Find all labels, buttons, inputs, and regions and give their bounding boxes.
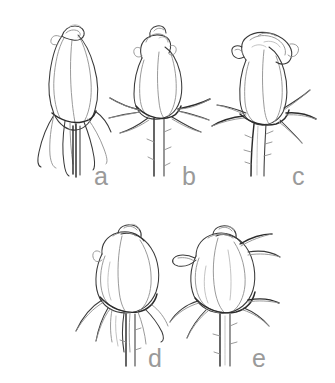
rose-bud-drawing-b bbox=[104, 14, 219, 179]
rose-bud-drawing-c bbox=[206, 14, 331, 179]
panel-label-e: e bbox=[252, 346, 266, 371]
figure-panel-e: e bbox=[168, 200, 303, 370]
panel-label-c: c bbox=[292, 164, 305, 189]
rose-bud-drawing-e bbox=[168, 200, 303, 370]
panel-label-d: d bbox=[148, 346, 162, 371]
figure-panel-b: b bbox=[104, 14, 219, 179]
panel-label-b: b bbox=[182, 164, 196, 189]
figure-panel-c: c bbox=[206, 14, 331, 179]
illustration-plate: a bbox=[0, 0, 335, 383]
